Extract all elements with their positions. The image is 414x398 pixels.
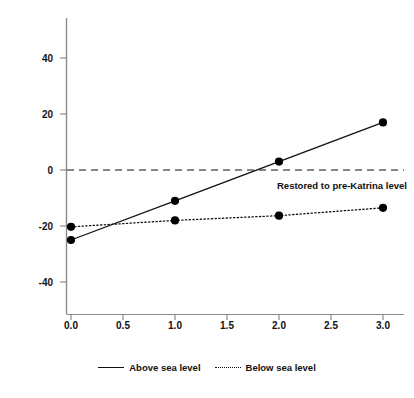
- data-point-marker[interactable]: [171, 216, 179, 224]
- data-point-marker[interactable]: [379, 118, 387, 126]
- legend-item-above-sea-level[interactable]: Above sea level: [98, 362, 200, 374]
- data-point-marker[interactable]: [275, 212, 283, 220]
- chart-legend: Above sea level Below sea level: [0, 362, 414, 374]
- legend-line-solid-icon: [98, 367, 124, 369]
- legend-line-dotted-icon: [215, 367, 241, 369]
- series-line: [71, 208, 383, 227]
- legend-label: Above sea level: [129, 362, 200, 374]
- series-below-sea-level: [67, 204, 387, 231]
- legend-item-below-sea-level[interactable]: Below sea level: [215, 362, 316, 374]
- chart-container: Percent change in population 40 20 0 -20…: [0, 0, 414, 398]
- data-point-marker[interactable]: [67, 236, 75, 244]
- reference-line-annotation: Restored to pre-Katrina level: [277, 180, 407, 191]
- data-point-marker[interactable]: [67, 223, 75, 231]
- data-point-marker[interactable]: [379, 204, 387, 212]
- data-point-marker[interactable]: [171, 197, 179, 205]
- plot-canvas: [0, 0, 414, 398]
- data-point-marker[interactable]: [275, 158, 283, 166]
- legend-label: Below sea level: [246, 362, 316, 374]
